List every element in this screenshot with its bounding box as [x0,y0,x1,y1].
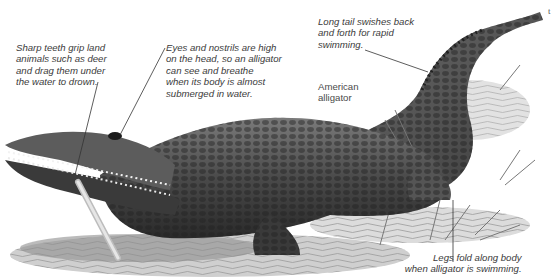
callout-legs: Legs fold along body when alligator is s… [433,252,522,275]
callout-teeth: Sharp teeth grip land animals such as de… [16,42,107,88]
leader-eyes [120,48,165,135]
callout-tail: Long tail swishes back and forth for rap… [318,16,414,50]
species-label: American alligator [318,81,359,104]
alligator-diagram: Sharp teeth grip land animals such as de… [0,0,554,280]
edge-text-fragment: t [548,6,551,16]
leader-tail [365,50,428,72]
callout-eyes: Eyes and nostrils are high on the head, … [166,42,282,99]
